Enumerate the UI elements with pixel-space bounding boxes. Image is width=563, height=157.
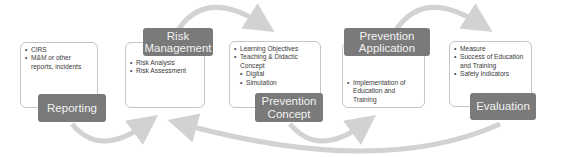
stage-evaluation-label: Evaluation [470, 93, 536, 120]
bullet-item: Success of Education and Training [454, 53, 527, 70]
stage-prevention-concept-label: Prevention Concept [255, 93, 323, 122]
bullet-item: Implementation of Education and Training [347, 79, 420, 104]
bullet-item: Risk Assessment [130, 67, 200, 75]
arrow-concept-to-application [290, 124, 364, 141]
arrow-application-to-evaluation [396, 7, 480, 30]
bullet-item: CIRS [25, 46, 93, 54]
bullet-item: Learning Objectives [234, 45, 316, 53]
arrow-reporting-to-risk [72, 124, 146, 141]
arrow-risk-to-concept [178, 7, 262, 30]
bullet-item: Safety Indicators [454, 70, 527, 78]
sub-bullet-item: Digital [234, 70, 316, 78]
bullet-item: M&M or other reports, incidents [25, 54, 93, 71]
sub-bullet-item: Simulation [234, 79, 316, 87]
stage-risk-management-label: Risk Management [143, 28, 213, 56]
bullet-item: Teaching & Didactic Concept [234, 53, 316, 70]
bullet-item: Risk Analysis [130, 59, 200, 67]
stage-reporting-label: Reporting [38, 94, 106, 122]
stage-prevention-application-label: Prevention Application [344, 28, 430, 56]
bullet-item: Measure [454, 45, 527, 53]
